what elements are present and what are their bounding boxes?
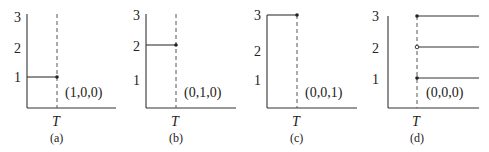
panel-caption: (a) — [50, 131, 63, 145]
y-tick-3: 3 — [254, 8, 261, 23]
closed-point — [295, 13, 299, 17]
x-tick-T: T — [171, 114, 180, 129]
y-tick-3: 3 — [14, 10, 21, 25]
y-tick-1: 1 — [254, 73, 261, 88]
y-tick-1: 1 — [14, 70, 21, 85]
y-tick-1: 1 — [372, 72, 379, 87]
panel-caption: (c) — [290, 131, 303, 145]
state-label: (0,0,0) — [426, 85, 464, 101]
y-tick-2: 2 — [14, 41, 21, 56]
panel-c: 3 2 1 (0,0,1) T (c) — [254, 8, 357, 145]
closed-point — [415, 76, 419, 80]
y-tick-1: 1 — [133, 73, 140, 88]
state-label: (0,1,0) — [184, 85, 222, 101]
y-tick-2: 2 — [254, 44, 261, 59]
y-tick-3: 3 — [133, 8, 140, 23]
panel-d: 3 2 1 (0,0,0) T (d) — [372, 9, 479, 145]
panel-caption: (d) — [410, 131, 424, 145]
y-tick-3: 3 — [372, 9, 379, 24]
closed-point — [55, 75, 59, 79]
panel-a: 3 2 1 (1,0,0) T (a) — [14, 10, 116, 145]
closed-point — [415, 14, 419, 18]
state-label: (0,0,1) — [305, 85, 343, 101]
state-label: (1,0,0) — [65, 85, 103, 101]
open-point — [415, 45, 419, 49]
closed-point — [174, 43, 178, 47]
y-tick-2: 2 — [133, 39, 140, 54]
x-tick-T: T — [52, 114, 61, 129]
panel-caption: (b) — [169, 131, 183, 145]
figure-canvas: 3 2 1 (1,0,0) T (a) 3 2 1 (0,1,0) T (b) … — [0, 0, 489, 152]
y-tick-2: 2 — [372, 41, 379, 56]
x-tick-T: T — [412, 114, 421, 129]
x-tick-T: T — [292, 114, 301, 129]
panel-b: 3 2 1 (0,1,0) T (b) — [133, 8, 236, 145]
